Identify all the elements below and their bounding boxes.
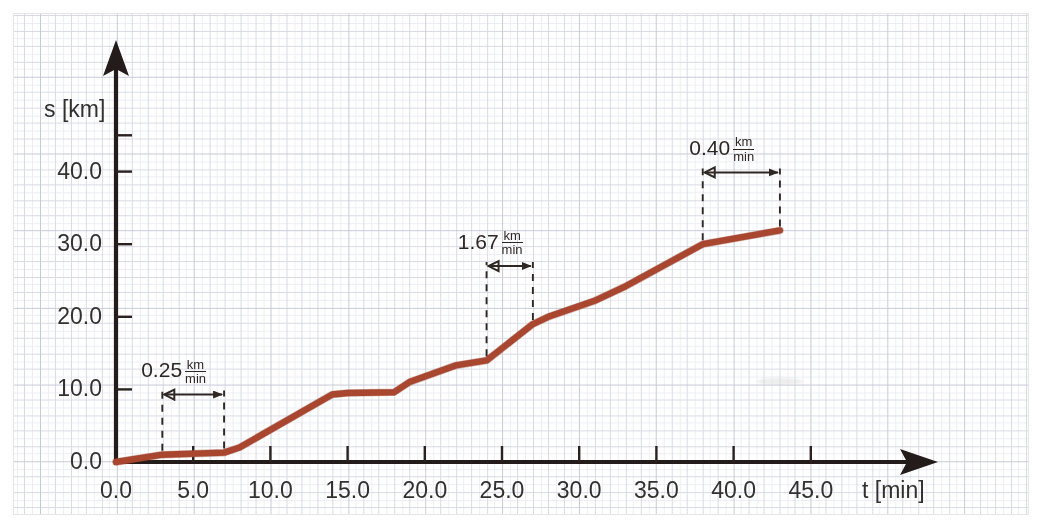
- annotation-unit-denominator: min: [502, 242, 523, 256]
- y-tick-label: 10.0: [4, 375, 102, 402]
- figure-root: s [km] t [min] 0.010.020.030.040.0 0.05.…: [0, 0, 1044, 530]
- annotation-value: 0.40: [689, 136, 730, 160]
- annotation-unit-denominator: min: [733, 149, 754, 163]
- data-curve: [116, 230, 780, 462]
- annotation-label: 1.67kmmin: [458, 228, 523, 256]
- annotation-unit-denominator: min: [185, 371, 206, 385]
- annotation-value: 1.67: [458, 230, 499, 254]
- annotation-unit-numerator: km: [735, 135, 752, 148]
- plot-svg: [0, 0, 1044, 530]
- annotation-geometry: [162, 167, 780, 450]
- data-curve-group: [116, 230, 780, 462]
- scan-blemish: [757, 378, 803, 385]
- y-tick-label: 0.0: [4, 448, 102, 475]
- data-curve-shadow: [116, 230, 780, 462]
- y-axis-label: s [km]: [44, 96, 105, 123]
- x-tick-label: 45.0: [761, 477, 861, 504]
- x-axis-label: t [min]: [862, 477, 925, 504]
- y-tick-label: 20.0: [4, 303, 102, 330]
- y-tick-label: 40.0: [4, 158, 102, 185]
- annotation-unit-numerator: km: [187, 358, 204, 371]
- annotation-label: 0.25kmmin: [141, 357, 206, 385]
- annotation-unit-numerator: km: [503, 229, 520, 242]
- annotation-unit-fraction: kmmin: [502, 229, 523, 257]
- annotation-label: 0.40kmmin: [689, 134, 754, 162]
- y-tick-marks: [116, 135, 132, 389]
- annotation-value: 0.25: [141, 358, 182, 382]
- y-tick-label: 30.0: [4, 230, 102, 257]
- axis-group: [103, 40, 938, 475]
- x-tick-marks: [193, 446, 811, 462]
- annotation-unit-fraction: kmmin: [733, 135, 754, 163]
- annotation-unit-fraction: kmmin: [185, 358, 206, 386]
